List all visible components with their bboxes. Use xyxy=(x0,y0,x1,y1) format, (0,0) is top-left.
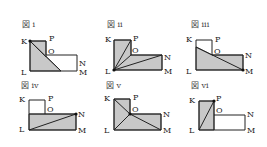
label-l: L xyxy=(105,67,111,76)
label-o: O xyxy=(132,105,139,114)
label-n: N xyxy=(247,110,254,119)
label-l: L xyxy=(104,126,110,135)
figures-diagram: 図 i K P O N M L 図 ii K P O N M L 図 iii K xyxy=(0,0,267,147)
moving-point-dot xyxy=(112,68,115,71)
label-p: P xyxy=(215,35,221,44)
figure-title: 図 v xyxy=(106,81,122,90)
figure-ii: 図 ii K P O N M L xyxy=(105,20,172,76)
figure-iii: 図 iii K P O N M L xyxy=(186,20,253,76)
figure-v: 図 v K P O N M L xyxy=(104,81,171,135)
label-l: L xyxy=(189,126,195,135)
figure-title: 図 vi xyxy=(191,81,209,90)
label-n: N xyxy=(164,53,171,62)
label-n: N xyxy=(245,51,252,60)
label-l: L xyxy=(186,67,192,76)
figure-iv: 図 iv K P O N M L xyxy=(19,81,86,135)
figure-title: 図 iii xyxy=(191,20,210,29)
label-m: M xyxy=(78,126,86,135)
label-m: M xyxy=(163,126,171,135)
figure-title: 図 ii xyxy=(107,20,123,29)
figure-i: 図 i K P O N M L xyxy=(21,20,87,77)
label-k: K xyxy=(104,94,111,103)
label-n: N xyxy=(79,59,86,68)
label-k: K xyxy=(186,35,193,44)
label-o: O xyxy=(132,46,139,55)
figure-title: 図 i xyxy=(22,20,36,29)
label-o: O xyxy=(48,47,55,56)
label-p: P xyxy=(133,34,139,43)
label-k: K xyxy=(21,37,28,46)
label-m: M xyxy=(247,126,255,135)
label-n: N xyxy=(78,110,85,119)
label-p: P xyxy=(133,93,139,102)
label-p: P xyxy=(216,94,222,103)
label-p: P xyxy=(48,94,54,103)
label-o: O xyxy=(214,47,221,56)
figure-title: 図 iv xyxy=(21,81,39,90)
label-n: N xyxy=(163,110,170,119)
label-k: K xyxy=(189,96,196,105)
label-k: K xyxy=(105,35,112,44)
label-m: M xyxy=(164,67,172,76)
label-m: M xyxy=(79,68,87,77)
figure-vi: 図 vi K P O N M L xyxy=(189,81,255,135)
label-l: L xyxy=(19,125,25,134)
label-l: L xyxy=(21,68,27,77)
label-m: M xyxy=(245,67,253,76)
label-k: K xyxy=(19,95,26,104)
label-o: O xyxy=(216,106,223,115)
moving-point-dot xyxy=(28,39,31,42)
label-p: P xyxy=(49,34,55,43)
label-o: O xyxy=(47,105,54,114)
